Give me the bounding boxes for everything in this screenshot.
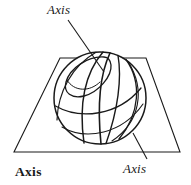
- axis-label-top: Axis: [47, 3, 70, 16]
- figure-container: Axis Axis Axis: [0, 0, 191, 185]
- sphere-on-plane-figure: [0, 0, 191, 185]
- axis-label-bottom-right: Axis: [123, 162, 146, 175]
- axis-label-bottom-left: Axis: [15, 165, 42, 179]
- leader-line-bottom-right: [133, 133, 147, 159]
